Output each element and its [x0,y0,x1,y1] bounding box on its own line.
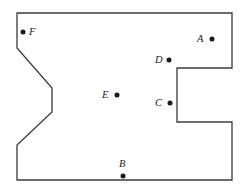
point-label-D: D [155,55,163,66]
point-dot-A [210,37,215,42]
point-label-A: A [197,34,203,45]
point-dot-E [115,93,120,98]
point-label-E: E [102,90,108,101]
point-dot-D [167,58,172,63]
point-label-B: B [119,159,125,170]
point-dot-F [21,30,26,35]
geometry-figure: A B C D E F [0,0,249,196]
point-dot-B [121,174,126,179]
point-label-F: F [29,27,35,38]
point-dot-C [168,101,173,106]
point-label-C: C [155,98,162,109]
